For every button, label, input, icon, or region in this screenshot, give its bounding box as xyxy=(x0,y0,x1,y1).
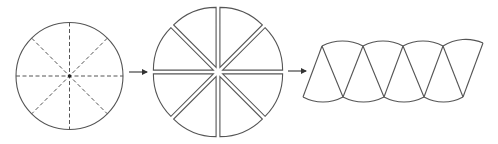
bottom-arc xyxy=(424,97,463,102)
bottom-arc xyxy=(384,97,424,102)
sector-edge xyxy=(343,46,363,97)
diagram-canvas xyxy=(0,0,498,144)
top-arc xyxy=(443,39,483,46)
sector-edge xyxy=(363,46,384,97)
divided-circle xyxy=(16,23,123,130)
rearranged-parallelogram xyxy=(303,39,483,102)
top-arc xyxy=(322,41,363,46)
top-arc xyxy=(363,41,403,46)
sector-edge xyxy=(424,46,443,97)
sector-edge xyxy=(322,46,343,97)
sector-edge xyxy=(384,46,403,97)
bottom-arc xyxy=(303,97,343,102)
sector-edge xyxy=(463,43,483,97)
bottom-arc xyxy=(343,97,384,102)
sector-edge xyxy=(443,46,463,97)
sector-edge xyxy=(403,46,424,97)
sliced-circle xyxy=(153,7,282,136)
top-arc xyxy=(403,41,443,46)
center-dot xyxy=(68,74,72,78)
diagram-svg xyxy=(0,0,498,144)
